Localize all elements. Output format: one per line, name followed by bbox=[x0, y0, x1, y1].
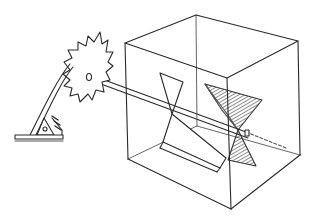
sketch-illustration bbox=[0, 0, 310, 223]
cube-frame bbox=[125, 15, 300, 209]
blade-hub bbox=[87, 74, 92, 81]
vane-lower-left bbox=[163, 114, 226, 168]
cube-edge-left bbox=[125, 43, 128, 159]
cube-top-face bbox=[125, 15, 298, 78]
cube-edge-right bbox=[298, 41, 300, 155]
vane-assembly bbox=[160, 73, 262, 172]
saw-blade bbox=[63, 32, 113, 102]
